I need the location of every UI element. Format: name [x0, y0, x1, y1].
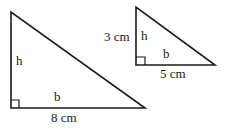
right-angle-marker-large [11, 100, 19, 108]
small-base-label: b [163, 47, 170, 60]
small-base-value: 5 cm [160, 67, 186, 80]
small-height-label: h [141, 29, 148, 42]
right-angle-marker-small [136, 57, 145, 65]
large-height-label: h [16, 54, 23, 67]
diagram-canvas [0, 0, 225, 137]
large-triangle [11, 12, 145, 108]
large-base-label: b [54, 90, 61, 103]
small-height-value: 3 cm [104, 30, 130, 43]
large-base-value: 8 cm [51, 111, 77, 124]
